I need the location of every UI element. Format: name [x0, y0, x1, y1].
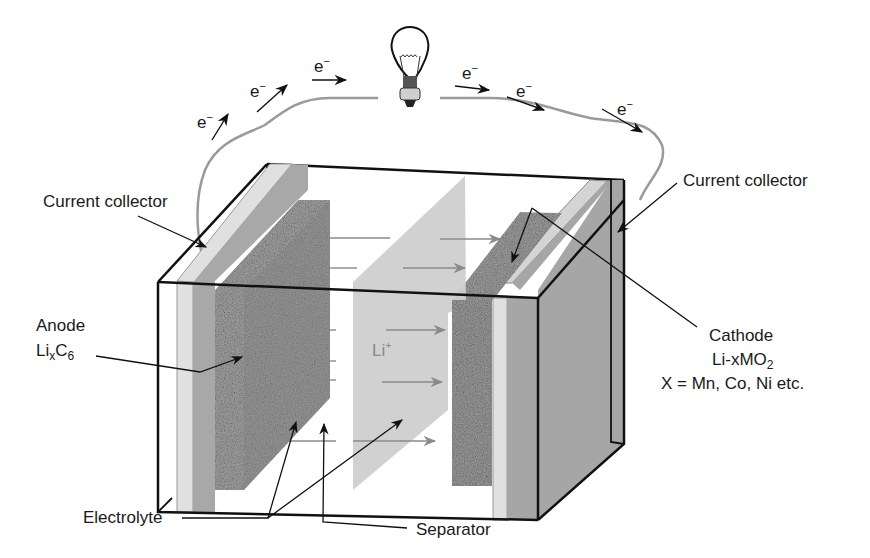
svg-text:e−: e−: [197, 111, 213, 132]
label-separator: Separator: [416, 520, 491, 539]
svg-text:e−: e−: [617, 98, 633, 119]
svg-text:e−: e−: [250, 80, 266, 101]
svg-text:e−: e−: [462, 62, 478, 83]
electron-flow-arrows: [212, 80, 642, 140]
cathode-current-collector: [493, 298, 539, 520]
label-electrolyte: Electrolyte: [83, 508, 162, 527]
svg-text:e−: e−: [314, 55, 330, 76]
label-anode: Anode: [36, 316, 85, 335]
label-current-collector-left: Current collector: [43, 192, 168, 211]
label-cathode-note: X = Mn, Co, Ni etc.: [661, 374, 804, 393]
light-bulb-icon: [392, 27, 429, 107]
cell-case-back: [267, 164, 624, 192]
label-cathode-formula: Li-xMO2: [712, 350, 774, 372]
label-current-collector-right: Current collector: [683, 171, 808, 190]
label-cathode: Cathode: [709, 326, 773, 345]
battery-diagram: e− e− e− e− e− e−: [0, 0, 870, 558]
label-anode-formula: LixC6: [36, 341, 75, 363]
svg-text:e−: e−: [516, 80, 532, 101]
cathode: [452, 300, 492, 486]
